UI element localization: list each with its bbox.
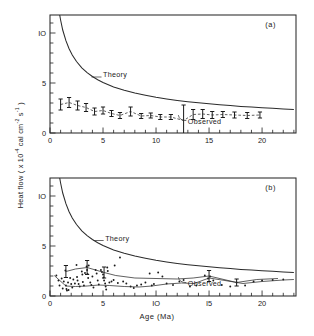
data-point <box>84 272 86 274</box>
data-point <box>63 281 65 283</box>
data-point <box>82 281 84 283</box>
panel-b: 05IOI52005IOTheoryObserved(b) <box>38 177 296 308</box>
data-point <box>76 276 78 278</box>
x-tick-label: 0 <box>48 136 52 145</box>
data-point <box>105 286 107 288</box>
data-point <box>89 282 91 284</box>
data-point <box>114 265 116 267</box>
data-point <box>55 275 57 277</box>
data-point <box>106 267 108 269</box>
data-point <box>133 287 135 289</box>
heat-flow-figure: Heat flow ( x 10-4 cal cm-2 s-1 ) Age (M… <box>0 0 314 336</box>
theory-curve <box>60 177 294 272</box>
data-point <box>144 282 146 284</box>
data-point <box>93 287 95 289</box>
data-point <box>149 273 151 275</box>
data-point <box>119 257 121 259</box>
data-point <box>103 280 105 282</box>
data-point <box>91 276 93 278</box>
plot-frame <box>50 178 296 296</box>
data-point <box>70 283 72 285</box>
data-point <box>157 272 159 274</box>
observed-annotation: Observed <box>188 279 222 288</box>
x-tick-label: I5 <box>206 299 212 308</box>
data-point <box>62 288 64 290</box>
x-tick-label: 20 <box>258 136 266 145</box>
data-point <box>77 280 79 282</box>
data-point <box>183 279 185 281</box>
data-point <box>81 271 83 273</box>
data-point <box>61 278 63 280</box>
data-point <box>125 283 127 285</box>
plot-canvas: 0510152005IOTheoryObserved(a) 05IOI52005… <box>0 0 314 336</box>
data-point <box>88 265 90 267</box>
data-point <box>111 281 113 283</box>
theory-annotation: Theory <box>103 70 127 79</box>
data-point <box>87 277 89 279</box>
data-point <box>122 281 124 283</box>
data-point <box>100 269 102 271</box>
data-point <box>105 289 107 291</box>
y-tick-label: 5 <box>42 242 46 251</box>
data-point <box>96 273 98 275</box>
data-point <box>108 282 110 284</box>
data-point <box>67 282 69 284</box>
data-point <box>72 279 74 281</box>
theory-annotation: Theory <box>105 234 129 243</box>
x-tick-label: IO <box>152 299 160 308</box>
data-point <box>136 285 138 287</box>
data-point <box>113 279 115 281</box>
observed-envelope <box>54 276 294 288</box>
x-tick-label: 5 <box>101 136 105 145</box>
y-tick-label: 5 <box>42 79 46 88</box>
data-point <box>107 270 109 272</box>
data-point <box>68 289 70 291</box>
x-tick-label: 20 <box>258 299 266 308</box>
data-point <box>244 285 246 287</box>
data-point <box>74 283 76 285</box>
panel-label: (a) <box>265 20 276 29</box>
theory-curve <box>60 14 294 109</box>
y-tick-label: 0 <box>42 129 46 138</box>
data-point <box>104 283 106 285</box>
data-point <box>78 283 80 285</box>
y-tick-label: IO <box>38 192 46 201</box>
panel-a: 0510152005IOTheoryObserved(a) <box>38 14 296 145</box>
x-tick-label: 10 <box>152 136 160 145</box>
plot-frame <box>50 15 296 133</box>
y-tick-label: 0 <box>42 292 46 301</box>
data-point <box>81 274 83 276</box>
x-tick-label: 0 <box>48 299 52 308</box>
panel-label: (b) <box>265 183 276 192</box>
y-tick-label: IO <box>38 29 46 38</box>
x-tick-label: 15 <box>205 136 213 145</box>
data-point <box>140 284 142 286</box>
data-point <box>172 284 174 286</box>
data-point <box>97 280 99 282</box>
x-tick-label: 5 <box>101 299 105 308</box>
data-point <box>59 285 61 287</box>
data-point <box>161 276 163 278</box>
data-point <box>117 282 119 284</box>
data-point <box>69 277 71 279</box>
data-point <box>229 286 231 288</box>
data-point <box>71 287 73 289</box>
data-point <box>153 283 155 285</box>
observed-leader <box>178 115 186 121</box>
data-point <box>76 264 78 266</box>
observed-annotation: Observed <box>188 117 222 126</box>
